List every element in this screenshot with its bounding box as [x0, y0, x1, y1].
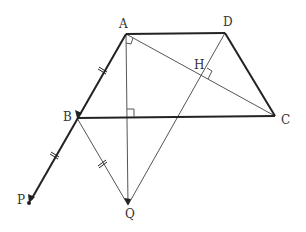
point-P-dot	[27, 201, 31, 205]
segment-BC	[77, 116, 275, 118]
segment-DC	[225, 33, 275, 116]
segment-BQ	[77, 118, 128, 205]
label-P: P	[17, 193, 25, 207]
right-angle-foot-icon	[127, 109, 134, 117]
label-C: C	[281, 113, 290, 127]
label-B: B	[63, 110, 72, 124]
right-angle-H-icon	[207, 68, 212, 79]
segment-AD	[126, 33, 225, 34]
label-Q: Q	[125, 207, 135, 221]
right-angle-A-icon	[126, 38, 133, 44]
segment-AQ	[126, 34, 128, 205]
geometry-diagram: A D H B C P Q	[0, 0, 306, 232]
diagram-canvas: A D H B C P Q	[0, 0, 306, 232]
label-D: D	[223, 15, 233, 29]
label-H: H	[194, 58, 204, 72]
segment-DQ	[128, 33, 225, 205]
segment-AC	[126, 34, 275, 116]
label-A: A	[118, 17, 128, 31]
